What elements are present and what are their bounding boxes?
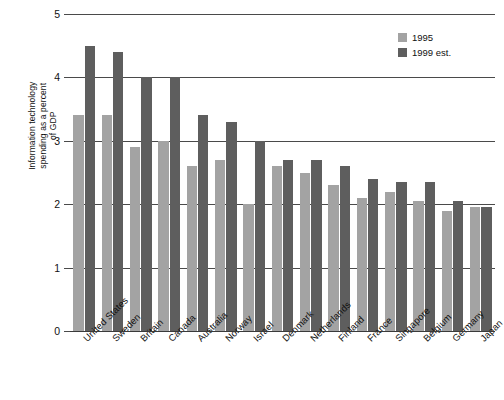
x-tick-label: France [365,315,394,344]
legend-item: 1999 est. [398,46,451,59]
legend-label: 1995 [412,33,433,43]
legend-label: 1999 est. [412,48,451,58]
x-tick-label: Australia [195,309,230,344]
x-axis-baseline [70,331,495,332]
x-tick-label: Canada [166,312,198,344]
legend: 1995 1999 est. [398,31,451,61]
legend-swatch-icon [398,33,407,42]
legend-item: 1995 [398,31,451,44]
legend-swatch-icon [398,48,407,57]
